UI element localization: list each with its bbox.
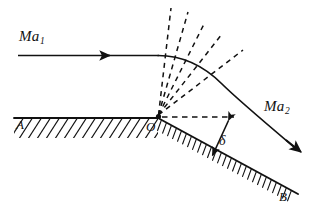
expansion-fan-figure: Ma1 Ma2 A O B δ [0, 0, 325, 217]
corner-point-label: O [146, 120, 155, 133]
downstream-mach-subscript: 2 [285, 106, 290, 116]
inclined-wall-line [158, 118, 298, 194]
downstream-mach-text: Ma [264, 98, 284, 114]
corner-vertex-point [156, 114, 161, 119]
upstream-mach-label: Ma1 [19, 29, 44, 44]
upstream-mach-text: Ma [19, 28, 39, 44]
downstream-mach-label: Ma2 [264, 99, 289, 114]
wall-end-label: B [279, 190, 287, 203]
deflection-angle-label: δ [219, 134, 226, 148]
expansion-ray-1 [159, 8, 172, 115]
expansion-ray-5 [159, 50, 244, 115]
wall-start-label: A [16, 118, 24, 131]
outgoing-streamline-arrow [286, 140, 301, 152]
upstream-mach-subscript: 1 [40, 36, 45, 46]
expansion-ray-3 [159, 22, 206, 115]
expansion-fan-rays [159, 8, 244, 115]
